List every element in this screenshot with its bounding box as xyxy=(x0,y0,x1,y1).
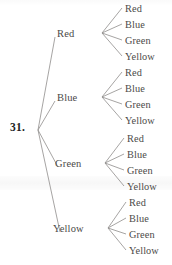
leaf-label-blue-green: Green xyxy=(125,99,151,110)
leaf-label-yellow-yellow: Yellow xyxy=(129,245,159,256)
leaf-label-green-blue: Blue xyxy=(127,149,147,160)
branch-node-label-yellow: Yellow xyxy=(53,223,84,234)
leaf-label-yellow-blue: Blue xyxy=(129,213,149,224)
leaf-label-red-blue: Blue xyxy=(125,19,145,30)
branch-green-blue xyxy=(105,154,124,163)
branch-blue-blue xyxy=(102,88,122,97)
branch-red-blue xyxy=(102,24,122,33)
leaf-label-blue-yellow: Yellow xyxy=(125,115,155,126)
branch-red-red xyxy=(102,8,122,33)
leaf-label-yellow-red: Red xyxy=(129,197,146,208)
branch-yellow-blue xyxy=(108,218,126,228)
item-number: 31. xyxy=(10,121,25,133)
leaf-label-yellow-green: Green xyxy=(129,229,155,240)
leaf-label-red-green: Green xyxy=(125,35,151,46)
leaf-label-blue-blue: Blue xyxy=(125,83,145,94)
leaf-label-green-green: Green xyxy=(127,165,153,176)
leaf-label-red-red: Red xyxy=(125,3,142,14)
branch-green-red xyxy=(105,138,124,163)
leaf-label-red-yellow: Yellow xyxy=(125,51,155,62)
branch-blue-red xyxy=(102,72,122,97)
leaf-label-green-yellow: Yellow xyxy=(127,181,157,192)
branch-node-label-green: Green xyxy=(55,158,81,169)
branch-yellow-red xyxy=(108,202,126,228)
leaf-label-green-red: Red xyxy=(127,133,144,144)
branch-node-label-red: Red xyxy=(57,28,74,39)
leaf-label-blue-red: Red xyxy=(125,67,142,78)
branch-node-label-blue: Blue xyxy=(57,92,77,103)
branch-root-yellow xyxy=(38,130,60,232)
